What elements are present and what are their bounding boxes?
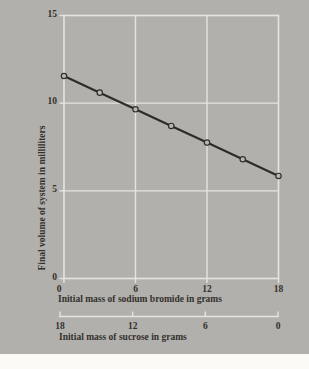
y-axis-title: Final volume of system in milliliters xyxy=(37,126,47,271)
x-tick-label: 0 xyxy=(47,284,71,294)
y-tick-label: 10 xyxy=(33,96,57,106)
x2-tick-label: 12 xyxy=(121,321,145,331)
page: 051015061218181260 Final volume of syste… xyxy=(0,0,309,369)
y-tick-label: 15 xyxy=(33,9,57,19)
x2-tick-label: 6 xyxy=(193,321,217,331)
x2-tick-label: 18 xyxy=(48,321,72,331)
x-tick-label: 6 xyxy=(124,284,148,294)
x2-axis-title: Initial mass of sucrose in grams xyxy=(59,332,187,342)
y-tick-label: 0 xyxy=(33,272,57,282)
x2-tick-label: 0 xyxy=(266,321,290,331)
x-tick-label: 18 xyxy=(267,284,291,294)
figure-panel: 051015061218181260 Final volume of syste… xyxy=(0,0,309,354)
x-axis-title: Initial mass of sodium bromide in grams xyxy=(58,294,222,304)
x-tick-label: 12 xyxy=(195,284,219,294)
